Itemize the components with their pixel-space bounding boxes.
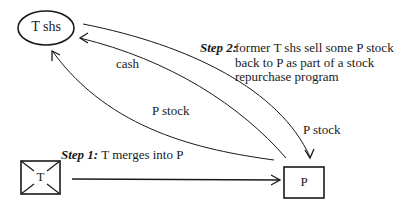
step2-prefix: Step 2: [200, 41, 237, 55]
step1-prefix: Step 1: [61, 147, 98, 162]
p-stock-upper-label: P stock [152, 104, 189, 118]
p-stock-right-label: P stock [303, 123, 340, 137]
step1-caption: Step 1: T merges into P [61, 148, 183, 162]
step2-line-1: former T shs sell some P stock [235, 41, 394, 55]
step2-line-2: back to P as part of a stock [235, 56, 374, 70]
merger-arrow [72, 175, 280, 185]
step1-text: T merges into P [101, 147, 183, 162]
p-company-label: P [284, 174, 324, 190]
step2-line-3: repurchase program [235, 70, 339, 84]
t-company-label: T [21, 169, 60, 185]
cash-label: cash [116, 57, 139, 71]
t-shareholders-label: T shs [18, 19, 74, 35]
